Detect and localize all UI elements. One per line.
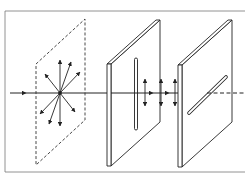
vertical-slit: [135, 58, 138, 130]
polarization-diagram: [0, 0, 245, 175]
